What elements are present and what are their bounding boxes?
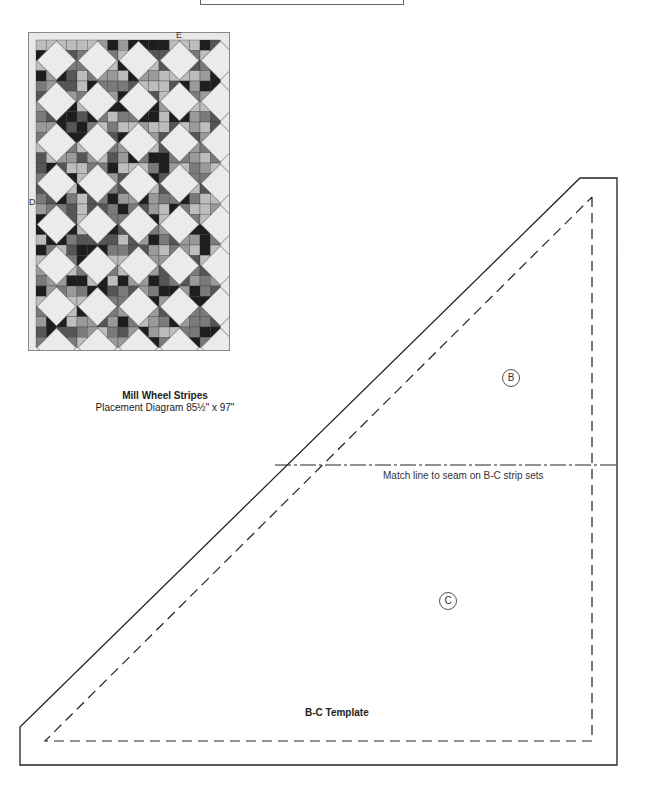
piece-c-label: C [439,592,457,610]
template-title: B-C Template [305,707,369,718]
piece-b-label: B [502,369,520,387]
bc-template-outline [0,0,645,787]
match-line-label: Match line to seam on B-C strip sets [383,470,544,481]
